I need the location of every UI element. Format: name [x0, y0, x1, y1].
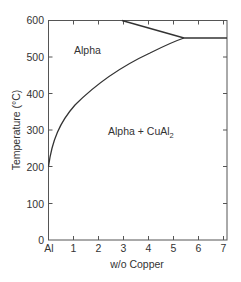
y-tick-label: 400	[26, 88, 44, 100]
y-axis-title: Temperature (°C)	[10, 90, 22, 171]
x-tick-label: 3	[121, 242, 127, 254]
x-tick-label: 6	[196, 242, 202, 254]
x-ticks-top	[74, 21, 224, 25]
x-tick-label: 4	[146, 242, 152, 254]
y-tick-label: 0	[38, 234, 44, 246]
y-tick-label: 600	[26, 14, 44, 26]
subscript-2: 2	[170, 131, 174, 140]
x-ticks-bottom	[74, 236, 224, 240]
x-tick-labels: Al 1 2 3 4 5 6 7	[44, 242, 226, 254]
y-tick-label: 100	[26, 198, 44, 210]
y-tick-label: 500	[26, 51, 44, 63]
solvus-curve	[49, 38, 185, 167]
y-tick-label: 200	[26, 161, 44, 173]
y-ticks-right	[223, 57, 227, 204]
phase-diagram-chart: 600 500 400 300 200 100 0 Al 1 2 3 4 5 6…	[0, 0, 241, 282]
y-tick-labels: 600 500 400 300 200 100 0	[26, 14, 44, 246]
y-ticks-left	[49, 57, 53, 204]
x-tick-label: 7	[221, 242, 227, 254]
y-tick-label: 300	[26, 124, 44, 136]
region-label-alpha-cual2: Alpha + CuAl2	[108, 125, 174, 140]
x-axis-title: w/o Copper	[109, 258, 164, 270]
x-tick-label: 1	[71, 242, 77, 254]
x-tick-label: 2	[96, 242, 102, 254]
x-tick-label: 5	[171, 242, 177, 254]
x-tick-label: Al	[44, 242, 53, 254]
region-label-alpha: Alpha	[74, 44, 101, 56]
solidus-line	[122, 21, 184, 39]
region-label-main: Alpha + CuAl	[108, 125, 170, 137]
